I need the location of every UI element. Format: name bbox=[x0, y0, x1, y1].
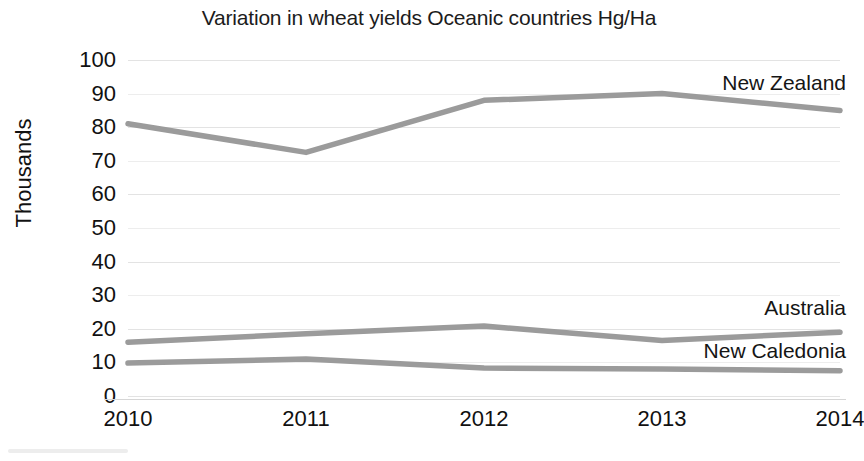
series-line bbox=[128, 94, 840, 153]
series-label: Australia bbox=[0, 296, 846, 320]
series-label: New Zealand bbox=[0, 71, 846, 95]
scan-artifact bbox=[8, 449, 128, 453]
series-label: New Caledonia bbox=[0, 339, 846, 363]
